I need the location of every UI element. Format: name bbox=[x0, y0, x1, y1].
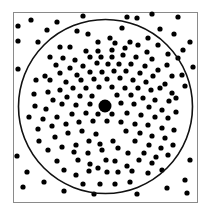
point bbox=[49, 123, 54, 128]
point bbox=[61, 167, 66, 172]
point bbox=[90, 118, 95, 123]
point bbox=[35, 126, 40, 131]
point bbox=[99, 147, 104, 152]
point bbox=[61, 188, 66, 193]
point bbox=[76, 119, 81, 124]
point bbox=[116, 61, 121, 66]
point bbox=[135, 42, 140, 47]
point bbox=[180, 47, 185, 52]
point bbox=[112, 40, 117, 45]
point bbox=[190, 64, 195, 69]
point bbox=[132, 121, 137, 126]
point bbox=[69, 111, 74, 116]
point bbox=[179, 72, 184, 77]
point bbox=[142, 63, 147, 68]
point bbox=[125, 150, 130, 155]
point bbox=[112, 181, 117, 186]
point bbox=[47, 54, 52, 59]
point bbox=[78, 77, 83, 82]
point bbox=[15, 38, 20, 43]
point bbox=[170, 142, 175, 147]
point bbox=[95, 39, 100, 44]
point bbox=[115, 145, 120, 150]
point bbox=[87, 69, 92, 74]
point bbox=[96, 84, 101, 89]
point bbox=[36, 138, 41, 143]
point bbox=[35, 39, 40, 44]
point bbox=[87, 101, 92, 106]
point bbox=[86, 168, 91, 173]
point bbox=[144, 49, 149, 54]
point bbox=[53, 62, 58, 67]
point bbox=[159, 107, 164, 112]
point bbox=[40, 116, 45, 121]
point bbox=[94, 60, 99, 65]
point bbox=[85, 31, 90, 36]
point bbox=[145, 170, 150, 175]
point bbox=[184, 190, 189, 195]
point bbox=[64, 94, 69, 99]
point bbox=[57, 70, 62, 75]
point bbox=[44, 27, 49, 32]
point bbox=[124, 163, 129, 168]
point bbox=[74, 72, 79, 77]
point bbox=[50, 97, 55, 102]
point bbox=[137, 130, 142, 135]
point bbox=[111, 68, 116, 73]
point bbox=[97, 141, 102, 146]
point bbox=[148, 87, 153, 92]
point bbox=[33, 77, 38, 82]
point bbox=[60, 55, 65, 60]
point bbox=[131, 101, 136, 106]
point bbox=[110, 138, 115, 143]
point bbox=[165, 152, 170, 157]
point bbox=[171, 127, 176, 132]
point bbox=[83, 85, 88, 90]
point bbox=[93, 131, 98, 136]
point bbox=[128, 61, 133, 66]
point bbox=[140, 95, 145, 100]
point bbox=[132, 138, 137, 143]
point bbox=[20, 184, 25, 189]
point bbox=[136, 157, 141, 162]
point bbox=[80, 63, 85, 68]
point bbox=[164, 62, 169, 67]
point bbox=[134, 191, 139, 196]
point bbox=[75, 157, 80, 162]
point bbox=[109, 111, 114, 116]
point bbox=[150, 73, 155, 78]
point bbox=[162, 135, 167, 140]
point bbox=[114, 92, 119, 97]
point bbox=[73, 142, 78, 147]
point bbox=[118, 100, 123, 105]
point bbox=[128, 92, 133, 97]
point bbox=[123, 128, 128, 133]
point bbox=[118, 119, 123, 124]
point bbox=[173, 95, 178, 100]
point bbox=[162, 81, 167, 86]
point bbox=[153, 154, 158, 159]
point bbox=[133, 54, 138, 59]
point bbox=[164, 185, 169, 190]
point bbox=[24, 169, 29, 174]
point bbox=[45, 147, 50, 152]
point bbox=[104, 118, 109, 123]
point bbox=[109, 47, 114, 52]
point bbox=[155, 67, 160, 72]
point bbox=[73, 102, 78, 107]
point bbox=[79, 128, 84, 133]
point bbox=[152, 114, 157, 119]
point bbox=[127, 39, 132, 44]
point-distribution-diagram bbox=[0, 0, 204, 213]
point bbox=[14, 153, 19, 158]
point bbox=[47, 77, 52, 82]
point bbox=[52, 134, 57, 139]
point bbox=[152, 97, 157, 102]
point bbox=[173, 109, 178, 114]
point bbox=[134, 15, 139, 20]
point bbox=[124, 110, 129, 115]
point bbox=[85, 150, 90, 155]
point bbox=[146, 142, 151, 147]
point bbox=[57, 87, 62, 92]
point bbox=[149, 56, 154, 61]
